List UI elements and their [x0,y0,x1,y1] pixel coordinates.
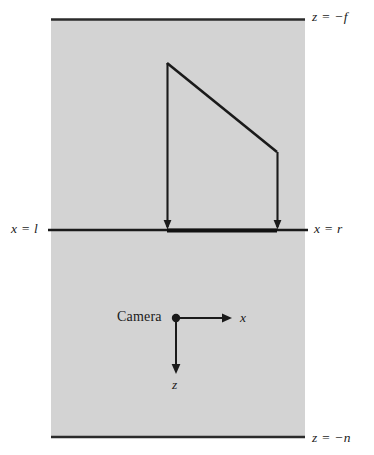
figure-root: z = −f z = −n x = l x = r Camera x z [0,0,374,455]
z-axis-label: z [172,377,178,393]
view-volume-region [51,19,305,437]
right-plane-label: x = r [314,221,343,237]
x-axis-label: x [240,310,246,326]
far-plane-label: z = −f [312,9,348,25]
camera-label: Camera [117,309,162,325]
left-plane-label: x = l [11,221,38,237]
near-plane-label: z = −n [312,430,351,446]
